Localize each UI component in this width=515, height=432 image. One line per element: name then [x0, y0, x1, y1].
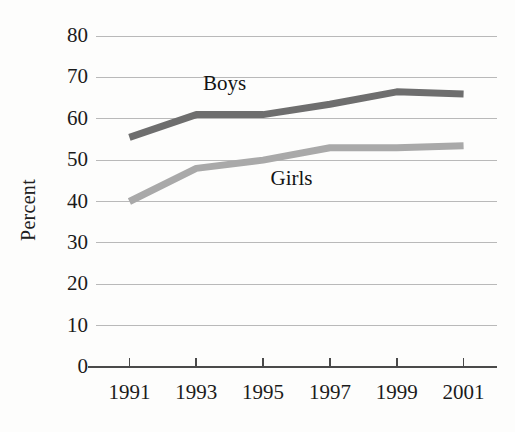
x-axis-tick-labels: 1991 1993 1995 1997 1999 2001: [0, 374, 515, 404]
series-annotation-girls: Girls: [271, 168, 313, 189]
x-tick-label-1991: 1991: [97, 381, 161, 404]
plot-area: [0, 0, 515, 432]
series-line-boys: [129, 92, 463, 138]
x-tick-label-1993: 1993: [164, 381, 228, 404]
x-tick-label-2001: 2001: [432, 381, 496, 404]
x-tick-label-1995: 1995: [231, 381, 295, 404]
x-tick-label-1999: 1999: [365, 381, 429, 404]
line-chart: Percent 80 70 60 50 40 30 20 10 0 1991 1…: [0, 0, 515, 432]
x-tick-label-1997: 1997: [298, 381, 362, 404]
x-axis-tick-marks: [129, 358, 463, 367]
series-annotation-boys: Boys: [203, 73, 246, 94]
